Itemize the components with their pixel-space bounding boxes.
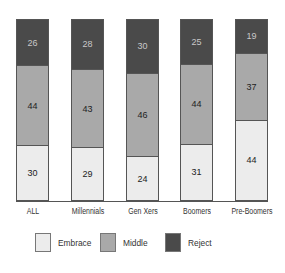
segment-reject: 28 (71, 19, 104, 70)
legend-item-embrace: Embrace (35, 233, 96, 252)
stacked-bar-chart: 304426ALL294328Millennials244630Gen Xers… (0, 0, 285, 273)
bar-millennials: 294328 (71, 19, 104, 201)
x-tick-label: Boomers (172, 206, 221, 216)
legend-label: Reject (188, 237, 212, 248)
legend-item-reject: Reject (165, 233, 215, 252)
segment-reject: 30 (126, 19, 159, 74)
segment-embrace: 29 (71, 147, 104, 201)
legend-item-middle: Middle (100, 233, 151, 252)
segment-reject: 19 (235, 19, 268, 54)
segment-embrace: 24 (126, 156, 159, 201)
segment-middle: 43 (71, 69, 104, 148)
segment-middle: 44 (16, 65, 49, 146)
bar-pre-boomers: 443719 (235, 19, 268, 201)
legend-label: Middle (123, 237, 148, 248)
x-tick-label: Gen Xers (118, 206, 167, 216)
x-tick-label: ALL (8, 206, 57, 216)
segment-reject: 26 (16, 19, 49, 66)
segment-reject: 25 (180, 19, 213, 65)
segment-middle: 37 (235, 53, 268, 121)
bar-all: 304426 (16, 19, 49, 201)
segment-embrace: 31 (180, 144, 213, 201)
x-tick-label: Pre-Boomers (227, 206, 276, 216)
legend-label: Embrace (58, 237, 91, 248)
bar-boomers: 314425 (180, 19, 213, 201)
legend-swatch-icon (100, 233, 116, 252)
segment-middle: 44 (180, 64, 213, 145)
bar-gen-xers: 244630 (126, 19, 159, 201)
segment-embrace: 30 (16, 145, 49, 201)
legend-swatch-icon (35, 233, 51, 252)
legend-swatch-icon (165, 233, 181, 252)
segment-middle: 46 (126, 73, 159, 158)
x-tick-label: Millennials (63, 206, 112, 216)
x-axis-line (16, 201, 268, 202)
segment-embrace: 44 (235, 120, 268, 201)
